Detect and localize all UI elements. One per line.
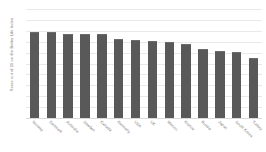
x-axis-labels: NorwayDenmarkAustraliaSwedenCanadaGerman… <box>26 119 262 147</box>
x-label-slot: UK <box>144 119 161 147</box>
bar-chart: Score out of 10 on the Better Life Index… <box>0 0 266 152</box>
bar[interactable] <box>63 34 72 118</box>
bar[interactable] <box>215 51 224 118</box>
y-axis-title: Score out of 10 on the Better Life Index <box>9 0 14 110</box>
x-label-slot: Denmark <box>43 119 60 147</box>
x-label-slot: Japan <box>211 119 228 147</box>
x-label-slot: Mexico <box>161 119 178 147</box>
x-axis-tick-label: France <box>183 120 195 132</box>
x-label-slot: Norway <box>26 119 43 147</box>
bar-slot <box>60 9 77 118</box>
plot-area: 109876543210 <box>26 9 262 118</box>
bar[interactable] <box>131 40 140 118</box>
bar[interactable] <box>249 58 258 118</box>
bar-slot <box>127 9 144 118</box>
bar[interactable] <box>148 41 157 118</box>
bar[interactable] <box>80 34 89 118</box>
bar[interactable] <box>232 52 241 118</box>
bar[interactable] <box>114 39 123 118</box>
bar-series <box>26 9 262 118</box>
x-axis-tick-label: Turkey <box>251 120 263 132</box>
bar-slot <box>110 9 127 118</box>
x-label-slot: Canada <box>93 119 110 147</box>
x-label-slot: Russia <box>195 119 212 147</box>
bar[interactable] <box>47 32 56 118</box>
bar-slot <box>144 9 161 118</box>
bar[interactable] <box>181 44 190 118</box>
bar-slot <box>26 9 43 118</box>
x-axis-tick-label: UK <box>149 120 156 127</box>
x-axis-tick-label: Japan <box>217 120 228 131</box>
bar[interactable] <box>198 49 207 118</box>
x-label-slot: Turkey <box>245 119 262 147</box>
bar[interactable] <box>30 32 39 118</box>
bar-slot <box>211 9 228 118</box>
bar-slot <box>245 9 262 118</box>
bar-slot <box>43 9 60 118</box>
x-label-slot: France <box>178 119 195 147</box>
bar[interactable] <box>165 42 174 118</box>
x-label-slot: USA <box>127 119 144 147</box>
bar-slot <box>195 9 212 118</box>
bar-slot <box>228 9 245 118</box>
x-label-slot: South Korea <box>228 119 245 147</box>
x-label-slot: Germany <box>110 119 127 147</box>
bar[interactable] <box>97 34 106 118</box>
x-label-slot: Sweden <box>77 119 94 147</box>
bar-slot <box>178 9 195 118</box>
bar-slot <box>93 9 110 118</box>
bar-slot <box>161 9 178 118</box>
x-label-slot: Australia <box>60 119 77 147</box>
x-axis-tick-label: USA <box>133 120 142 129</box>
x-axis-tick-label: Russia <box>200 120 212 132</box>
bar-slot <box>77 9 94 118</box>
